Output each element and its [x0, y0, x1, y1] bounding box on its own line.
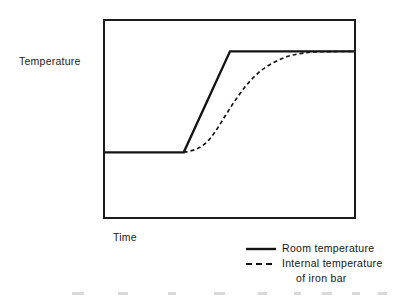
legend-label-internal-temperature-continued: of iron bar	[296, 271, 404, 286]
plot-area	[103, 19, 356, 219]
legend-entry-room-temperature: Room temperature	[246, 241, 404, 256]
figure-canvas: Temperature Time Room temperature	[0, 0, 405, 302]
scan-artifact-row	[0, 292, 405, 302]
x-axis-label: Time	[113, 231, 137, 243]
y-axis-label: Temperature	[19, 55, 81, 67]
legend-entry-internal-temperature-line2: of iron bar	[246, 271, 404, 286]
series-internal-temperature	[184, 51, 354, 152]
room-temperature-line	[105, 51, 354, 152]
legend-entry-internal-temperature: Internal temperature	[246, 256, 404, 271]
legend-label-internal-temperature: Internal temperature	[282, 256, 404, 271]
plot-svg	[105, 21, 354, 217]
legend: Room temperature Internal temperature of…	[246, 241, 404, 286]
dashed-line-sample	[246, 262, 276, 265]
solid-line-sample	[246, 247, 276, 250]
internal-temperature-line	[184, 51, 354, 152]
legend-label-room-temperature: Room temperature	[282, 241, 404, 256]
series-room-temperature	[105, 51, 354, 152]
